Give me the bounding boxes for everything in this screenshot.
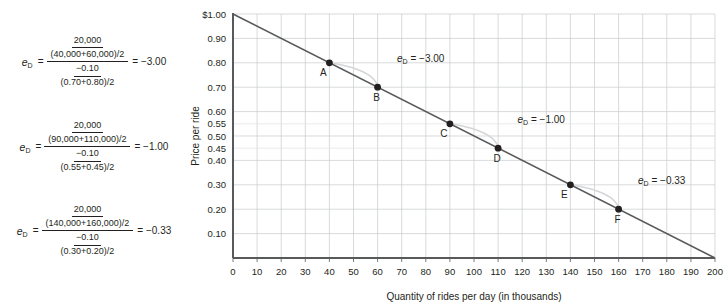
- data-point-label: E: [561, 189, 568, 200]
- x-tick-label: 120: [514, 266, 530, 277]
- fraction-denominator: −0.10 (0.70+0.80)/2: [57, 62, 119, 89]
- price-change-fraction: −0.10 (0.55+0.45)/2: [59, 148, 117, 173]
- x-tick-label: 180: [659, 266, 675, 277]
- elasticity-symbol: eD: [20, 141, 31, 153]
- compound-fraction: 20,000 (90,000+110,000)/2 −0.10 (0.55+0.…: [44, 119, 130, 175]
- data-point-f: F: [615, 206, 622, 225]
- y-tick-label: 0.30: [208, 179, 227, 190]
- x-tick-label: 10: [252, 266, 263, 277]
- data-point-label: A: [320, 67, 327, 78]
- data-point-d: D: [493, 145, 501, 164]
- y-axis-title: Price per ride: [190, 106, 201, 166]
- elasticity-annotation-ef: eD= −0.33: [638, 175, 686, 187]
- elasticity-annotation-ab: eD= −3.00: [397, 53, 445, 65]
- y-tick-label: $1.00: [202, 9, 226, 20]
- y-tick-label: 0.60: [208, 106, 227, 117]
- y-tick-label: 0.55: [208, 118, 227, 129]
- x-tick-label: 200: [707, 266, 723, 277]
- elasticity-formula-panel: eD = 20,000 (40,000+60,000)/2 −0.10 (0.7…: [0, 0, 188, 308]
- x-tick-label: 70: [396, 266, 407, 277]
- elasticity-result: = −0.33: [137, 225, 171, 236]
- y-tick-label: 0.50: [208, 131, 227, 142]
- x-tick-label: 0: [230, 266, 235, 277]
- y-tick-label: 0.80: [208, 57, 227, 68]
- elasticity-result: = −3.00: [132, 56, 166, 67]
- y-tick-label: 0.10: [208, 228, 227, 239]
- elasticity-annotation-cd: eD= −1.00: [517, 114, 565, 126]
- elasticity-calculation-ef: eD = 20,000 (140,000+160,000)/2 −0.10 (0…: [0, 203, 188, 259]
- x-tick-label: 60: [372, 266, 383, 277]
- x-tick-label: 100: [466, 266, 482, 277]
- demand-curve-chart: ABCDEF eD= −3.00eD= −1.00eD= −0.33 01020…: [188, 0, 728, 308]
- elasticity-calculation-cd: eD = 20,000 (90,000+110,000)/2 −0.10 (0.…: [0, 119, 188, 175]
- data-points: ABCDEF: [320, 59, 622, 225]
- data-point-label: B: [373, 92, 380, 103]
- x-axis-title: Quantity of rides per day (in thousands): [386, 291, 561, 302]
- y-tick-label: 0.90: [208, 33, 227, 44]
- x-tick-label: 50: [348, 266, 359, 277]
- data-point-label: F: [615, 214, 621, 225]
- price-change-fraction: −0.10 (0.70+0.80)/2: [59, 63, 117, 88]
- fraction-numerator: 20,000 (40,000+60,000)/2: [47, 34, 129, 62]
- data-point-label: D: [493, 153, 500, 164]
- x-tick-label: 190: [683, 266, 699, 277]
- fraction-denominator: −0.10 (0.30+0.20)/2: [57, 231, 119, 258]
- elasticity-symbol: eD: [17, 225, 28, 237]
- fraction-numerator: 20,000 (90,000+110,000)/2: [44, 119, 130, 147]
- y-tick-label: 0.20: [208, 204, 227, 215]
- x-tick-label: 20: [276, 266, 287, 277]
- y-tick-label: 0.40: [208, 155, 227, 166]
- equals-sign: =: [33, 225, 39, 236]
- quantity-change-fraction: 20,000 (90,000+110,000)/2: [46, 120, 128, 145]
- chart-svg: ABCDEF eD= −3.00eD= −1.00eD= −0.33 01020…: [188, 0, 728, 308]
- elasticity-symbol: eD: [22, 56, 33, 68]
- elasticity-result: = −1.00: [134, 141, 168, 152]
- x-tick-label: 140: [562, 266, 578, 277]
- x-tick-label: 90: [445, 266, 456, 277]
- x-tick-label: 150: [587, 266, 603, 277]
- tick-labels: 0102030405060708090100110120130140150160…: [202, 9, 723, 278]
- quantity-change-fraction: 20,000 (140,000+160,000)/2: [44, 204, 132, 229]
- x-tick-label: 40: [324, 266, 335, 277]
- elasticity-calculation-ab: eD = 20,000 (40,000+60,000)/2 −0.10 (0.7…: [0, 34, 188, 90]
- fraction-numerator: 20,000 (140,000+160,000)/2: [42, 203, 134, 231]
- quantity-change-fraction: 20,000 (40,000+60,000)/2: [49, 35, 127, 60]
- equals-sign: =: [35, 141, 41, 152]
- compound-fraction: 20,000 (40,000+60,000)/2 −0.10 (0.70+0.8…: [47, 34, 129, 90]
- compound-fraction: 20,000 (140,000+160,000)/2 −0.10 (0.30+0…: [42, 203, 134, 259]
- data-point-a: A: [320, 59, 333, 77]
- x-tick-label: 80: [421, 266, 432, 277]
- data-point-label: C: [440, 128, 447, 139]
- y-tick-label: 0.70: [208, 82, 227, 93]
- fraction-denominator: −0.10 (0.55+0.45)/2: [57, 147, 119, 174]
- x-tick-label: 160: [611, 266, 627, 277]
- x-tick-label: 130: [538, 266, 554, 277]
- equals-sign: =: [38, 56, 44, 67]
- x-tick-label: 170: [635, 266, 651, 277]
- y-tick-label: 0.45: [208, 143, 227, 154]
- x-tick-label: 30: [300, 266, 311, 277]
- price-change-fraction: −0.10 (0.30+0.20)/2: [59, 232, 117, 257]
- data-point-b: B: [373, 84, 381, 103]
- x-tick-label: 110: [491, 266, 506, 277]
- data-point-e: E: [561, 181, 574, 199]
